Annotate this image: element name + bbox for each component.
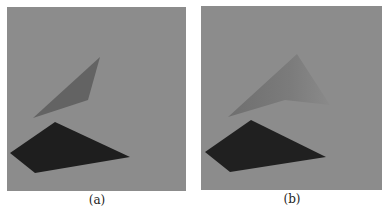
caption-b: (b) xyxy=(272,192,312,206)
panel-a-image xyxy=(0,0,387,214)
figure-panel-a xyxy=(0,0,387,214)
caption-a: (a) xyxy=(77,193,117,207)
